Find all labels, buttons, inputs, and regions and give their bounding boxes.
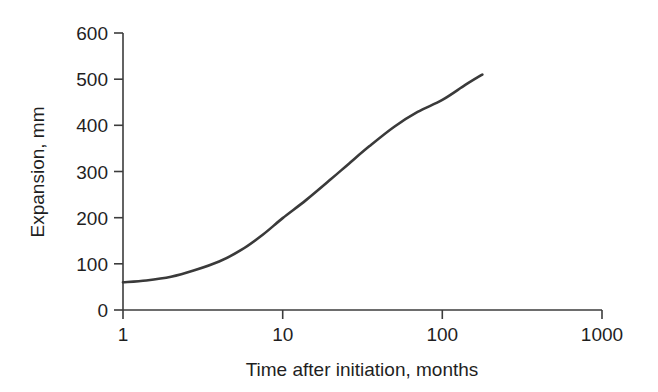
x-axis-title: Time after initiation, months (246, 359, 479, 380)
x-tick-label-1000: 1000 (581, 324, 623, 345)
y-tick-label-0: 0 (97, 300, 108, 321)
y-tick-label-300: 300 (76, 162, 108, 183)
y-tick-label-200: 200 (76, 208, 108, 229)
chart-background (0, 0, 658, 392)
x-tick-label-1: 1 (118, 324, 129, 345)
x-tick-label-10: 10 (272, 324, 293, 345)
y-tick-label-100: 100 (76, 254, 108, 275)
y-axis-title: Expansion, mm (27, 107, 48, 238)
y-tick-label-500: 500 (76, 69, 108, 90)
x-tick-label-100: 100 (426, 324, 458, 345)
y-tick-label-600: 600 (76, 23, 108, 44)
y-tick-label-400: 400 (76, 115, 108, 136)
expansion-vs-time-chart: 0 100 200 300 400 500 600 1 10 100 1000 … (0, 0, 658, 392)
